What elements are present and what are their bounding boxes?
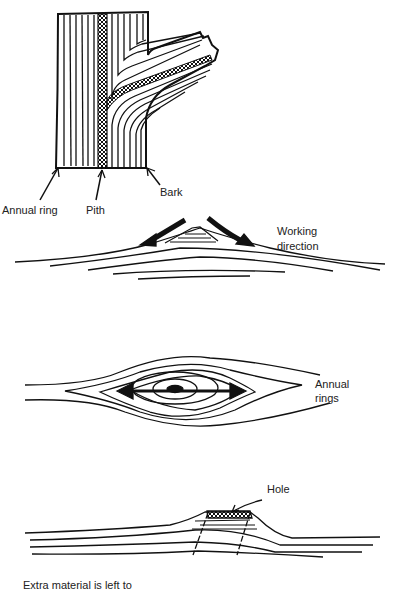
label-annual: Annual — [315, 378, 349, 391]
label-working: Working — [277, 225, 317, 238]
working-direction-figure — [15, 218, 385, 279]
label-hole: Hole — [267, 483, 290, 496]
wood-grain-diagrams — [0, 0, 398, 597]
annual-rings-figure — [25, 357, 330, 426]
caption-text: Extra material is left to — [23, 579, 132, 592]
tree-trunk-figure — [40, 12, 218, 200]
label-direction: direction — [277, 240, 319, 253]
label-pith: Pith — [86, 204, 105, 217]
hole-figure — [25, 500, 380, 557]
label-rings: rings — [315, 392, 339, 405]
label-bark: Bark — [160, 186, 183, 199]
label-annual-ring: Annual ring — [2, 204, 58, 217]
